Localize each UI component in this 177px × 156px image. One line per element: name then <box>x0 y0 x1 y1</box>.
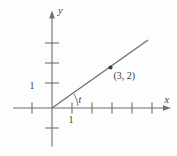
x-axis-arrowhead <box>163 105 171 111</box>
angle-arc <box>74 94 78 106</box>
coordinate-plane-figure: x 1 y 1 t (3, 2) <box>0 0 177 156</box>
angle-label: t <box>79 94 82 105</box>
y-axis-arrowhead <box>49 11 55 19</box>
x-axis-tick-label: 1 <box>69 114 74 125</box>
y-axis: y 1 <box>30 5 64 147</box>
point-label: (3, 2) <box>114 70 136 82</box>
point-dot <box>108 65 112 69</box>
y-axis-tick-label: 1 <box>30 80 35 91</box>
figure-canvas: x 1 y 1 t (3, 2) <box>0 0 177 156</box>
x-axis: x 1 <box>13 94 171 126</box>
x-axis-label: x <box>164 94 170 105</box>
y-axis-label: y <box>57 5 63 16</box>
